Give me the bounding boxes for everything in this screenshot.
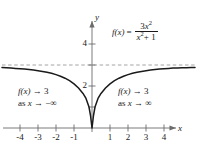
limit-annotation-left-line1: f(x) → 3: [18, 85, 57, 97]
limit-left-value: 3: [44, 86, 49, 96]
x-tick-label-neg4: -4: [14, 133, 26, 142]
x-tick-label-3: 3: [141, 133, 151, 142]
limit-left-variable: x: [28, 98, 32, 108]
x-axis-arrowhead: [170, 125, 177, 130]
formula-denominator-rest: + 1: [144, 32, 156, 42]
limit-annotation-right-line1: f(x) → 3: [118, 85, 152, 97]
formula-denominator: x2+ 1: [135, 32, 158, 42]
formula-equals: =: [127, 27, 132, 37]
y-tick-label-4: 4: [77, 39, 87, 48]
limit-left-arrow: →: [33, 86, 42, 96]
limit-right-as: as: [118, 98, 128, 108]
x-tick-label-neg2: -2: [50, 133, 62, 142]
limit-right-variable: x: [128, 98, 132, 108]
x-axis-label: x: [178, 124, 182, 133]
limit-left-arrow2: →: [34, 98, 43, 108]
limit-annotation-left-line2: as x → −∞: [18, 97, 57, 109]
y-tick-label-2: 2: [77, 81, 87, 90]
x-tick-label-2: 2: [123, 133, 133, 142]
limit-right-arrow2: →: [134, 98, 143, 108]
x-tick-label-neg3: -3: [32, 133, 44, 142]
formula-fraction: 3x2 x2+ 1: [135, 21, 158, 43]
graph-canvas: [0, 0, 197, 150]
limit-right-value: 3: [144, 86, 149, 96]
x-tick-label-4: 4: [159, 133, 169, 142]
function-formula: f(x) = 3x2 x2+ 1: [112, 21, 158, 43]
figure-container: -4 -3 -2 -1 1 2 3 4 2 4 x y f(x) = 3x2 x…: [0, 0, 197, 150]
limit-left-function: f(x): [18, 86, 31, 96]
limit-left-as: as: [18, 98, 28, 108]
limit-annotation-right-line2: as x → ∞: [118, 97, 152, 109]
limit-right-limit-value: ∞: [145, 98, 151, 108]
x-tick-label-1: 1: [105, 133, 115, 142]
y-axis-arrowhead: [89, 21, 94, 28]
limit-left-limit-value: −∞: [45, 98, 57, 108]
y-axis-label: y: [95, 13, 99, 22]
x-tick-label-neg1: -1: [68, 133, 80, 142]
limit-annotation-right: f(x) → 3 as x → ∞: [118, 85, 152, 109]
limit-right-arrow: →: [133, 86, 142, 96]
limit-annotation-left: f(x) → 3 as x → −∞: [18, 85, 57, 109]
formula-lhs: f(x): [112, 27, 125, 37]
formula-numerator-exponent: 2: [149, 19, 152, 26]
limit-right-function: f(x): [118, 86, 131, 96]
